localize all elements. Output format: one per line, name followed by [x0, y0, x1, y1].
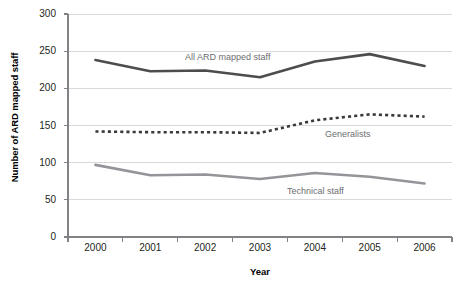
y-axis-tick-label-text: 150	[22, 121, 56, 131]
series-line-2	[95, 165, 424, 184]
x-axis-tick-label: 2004	[287, 242, 342, 253]
x-axis-title: Year	[68, 266, 452, 277]
y-axis-tick-label-text: 300	[22, 9, 56, 19]
y-axis-tick-label: 200	[22, 83, 56, 93]
x-axis-tick-label: 2000	[68, 242, 123, 253]
y-axis-tick-label-text: 200	[22, 83, 56, 93]
series-line-1	[95, 114, 424, 133]
series-label-1: Generalists	[325, 129, 371, 139]
x-axis-tick-label: 2001	[123, 242, 178, 253]
y-axis-title: Number of ARD mapped staff	[9, 18, 20, 218]
series-label-0: All ARD mapped staff	[185, 52, 270, 62]
y-axis-tick-label: 150	[22, 121, 56, 131]
y-axis-tick-label-text: 100	[22, 158, 56, 168]
y-axis-tick-label: 50	[22, 195, 56, 205]
x-axis-tick-label: 2006	[397, 242, 452, 253]
y-axis-tick-label: 300	[22, 9, 56, 19]
y-axis-tick-label: 0	[22, 232, 56, 242]
y-axis-tick-label-text: 50	[22, 195, 56, 205]
y-axis-tick-label: 100	[22, 158, 56, 168]
series-label-2: Technical staff	[287, 186, 344, 196]
y-axis-tick-label-text: 0	[22, 232, 56, 242]
x-axis-tick-label: 2005	[342, 242, 397, 253]
y-axis-tick-label: 250	[22, 46, 56, 56]
x-axis-tick-label: 2002	[178, 242, 233, 253]
y-axis-tick-label-text: 250	[22, 46, 56, 56]
chart-container: Number of ARD mapped staff Year 05010015…	[0, 0, 458, 287]
x-axis-tick-label: 2003	[233, 242, 288, 253]
